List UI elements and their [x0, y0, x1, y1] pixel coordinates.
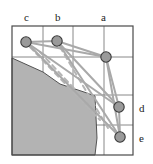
node-c [21, 37, 31, 47]
graph-diagram [0, 0, 153, 164]
label-d: d [139, 103, 145, 114]
node-a [101, 52, 111, 62]
node-d [114, 102, 124, 112]
node-e [115, 132, 125, 142]
label-c: c [24, 12, 29, 23]
figure-canvas: cbade [0, 0, 153, 164]
node-b [52, 36, 62, 46]
label-e: e [139, 133, 144, 144]
label-b: b [55, 12, 61, 23]
label-a: a [101, 12, 106, 23]
